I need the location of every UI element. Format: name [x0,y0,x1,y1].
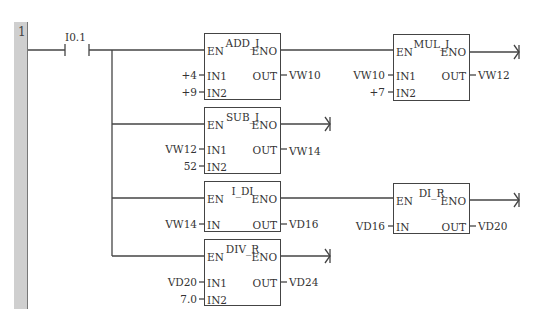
operand-out[interactable]: VW12 [478,69,510,81]
pin-in1: IN1 [396,70,416,82]
pin-in2: IN2 [207,161,227,173]
operand-in2[interactable]: 52 [155,160,197,172]
operand-in2[interactable]: +9 [160,86,197,98]
block-div-r[interactable]: DIV_R EN ENO IN1 IN2 OUT [204,239,281,306]
operand-in[interactable]: VD16 [345,220,385,232]
pin-eno: ENO [252,193,277,205]
pin-in2: IN2 [396,87,416,99]
pin-in1: IN1 [207,70,227,82]
operand-out[interactable]: VD24 [289,276,318,288]
pin-en: EN [396,195,413,207]
block-mul-i[interactable]: MUL_I EN ENO IN1 IN2 OUT [393,34,470,101]
pin-en: EN [396,46,413,58]
pin-in: IN [207,219,220,231]
pin-en: EN [207,251,224,263]
network-number: 1 [18,25,26,39]
pin-in2: IN2 [207,294,227,306]
pin-out: OUT [253,70,277,82]
operand-in2[interactable]: +7 [345,86,385,98]
pin-in1: IN1 [207,277,227,289]
block-sub-i[interactable]: SUB_I EN ENO IN1 IN2 OUT [204,107,281,174]
pin-eno: ENO [252,45,277,57]
block-i-di[interactable]: I_DI EN ENO IN OUT [204,181,281,232]
operand-out[interactable]: VW10 [289,69,321,81]
pin-out: OUT [253,219,277,231]
pin-out: OUT [253,144,277,156]
operand-in1[interactable]: +4 [160,69,197,81]
pin-eno: ENO [252,119,277,131]
pin-in: IN [396,221,409,233]
operand-in[interactable]: VW14 [155,218,197,230]
operand-in1[interactable]: VW12 [155,143,197,155]
power-rail [14,22,28,309]
pin-en: EN [207,45,224,57]
block-add-i[interactable]: ADD_I EN ENO IN1 IN2 OUT [204,33,281,100]
operand-out[interactable]: VW14 [289,145,321,157]
operand-in1[interactable]: VW10 [345,69,385,81]
pin-en: EN [207,119,224,131]
operand-out[interactable]: VD20 [478,220,507,232]
pin-eno: ENO [441,46,466,58]
pin-out: OUT [442,221,466,233]
pin-eno: ENO [441,195,466,207]
operand-in1[interactable]: VD20 [155,276,197,288]
pin-out: OUT [253,277,277,289]
pin-in1: IN1 [207,144,227,156]
pin-out: OUT [442,70,466,82]
operand-out[interactable]: VD16 [289,218,318,230]
operand-in2[interactable]: 7.0 [155,293,197,305]
contact-address[interactable]: I0.1 [65,31,86,43]
ladder-diagram: 1 I0.1 ADD_I EN ENO IN1 IN2 OUT +4 +9 VW… [0,0,536,321]
pin-eno: ENO [252,251,277,263]
pin-en: EN [207,193,224,205]
pin-in2: IN2 [207,87,227,99]
block-di-r[interactable]: DI_R EN ENO IN OUT [393,183,470,234]
